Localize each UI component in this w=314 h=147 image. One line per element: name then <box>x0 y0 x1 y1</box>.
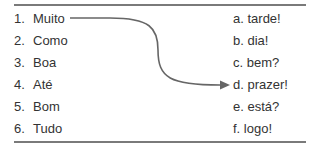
match-arrow-icon <box>0 0 314 147</box>
bottom-rule <box>14 141 306 143</box>
